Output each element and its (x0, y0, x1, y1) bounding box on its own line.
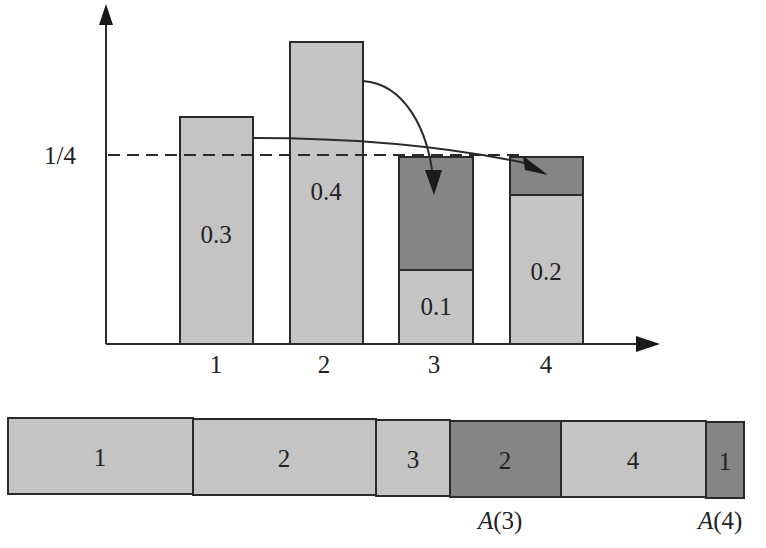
alias-label-a4: A(4) (696, 507, 742, 535)
strip-label-1: 1 (94, 444, 107, 471)
y-axis-arrow-icon (99, 4, 113, 25)
bar-3-value: 0.1 (420, 293, 451, 320)
alias-strip: 1 2 3 2 4 1 (8, 418, 744, 498)
y-tick-quarter: 1/4 (44, 142, 76, 169)
alias-label-a3: A(3) (476, 507, 522, 535)
x-tick-2: 2 (318, 351, 331, 378)
bar-4-value: 0.2 (530, 258, 561, 285)
alias-method-diagram: 1/4 0.3 0.4 0.1 0.2 1 2 3 4 1 2 3 2 4 1 … (0, 0, 766, 548)
bar-1-value: 0.3 (200, 221, 231, 248)
bar-4 (510, 157, 583, 344)
x-tick-1: 1 (210, 351, 223, 378)
x-axis-arrow-icon (636, 336, 660, 352)
bar-2-value: 0.4 (310, 178, 342, 205)
x-tick-3: 3 (428, 351, 441, 378)
x-tick-4: 4 (540, 351, 553, 378)
strip-label-6: 1 (719, 448, 732, 475)
strip-label-5: 4 (627, 447, 640, 474)
strip-label-4: 2 (499, 447, 512, 474)
strip-label-2: 2 (278, 445, 291, 472)
strip-label-3: 3 (407, 446, 420, 473)
